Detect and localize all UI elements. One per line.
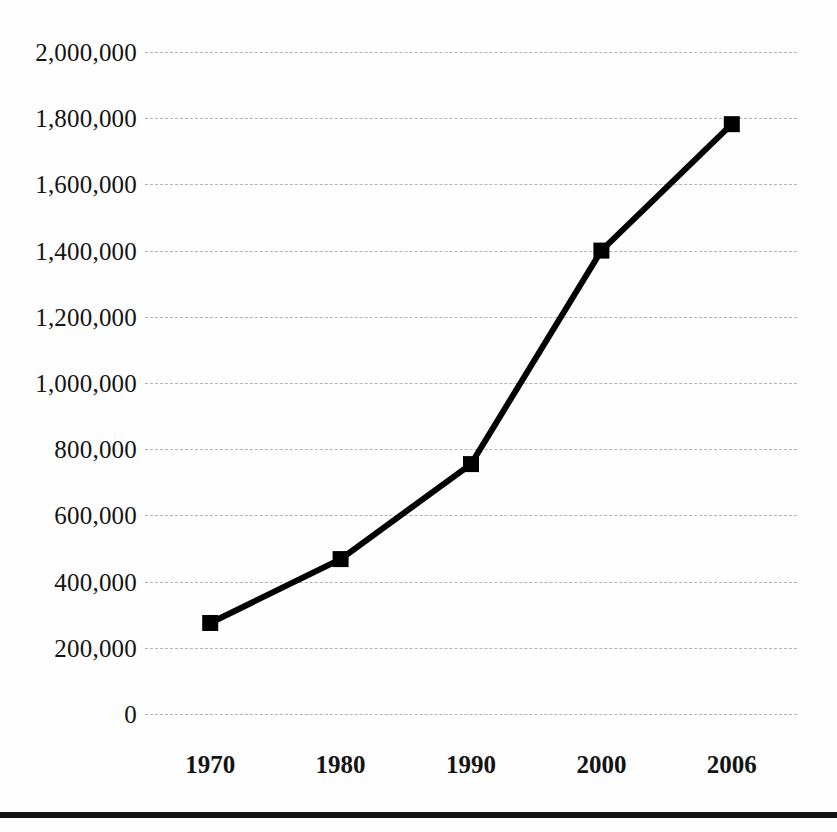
y-axis-tick-labels: 2,000,000 1,800,000 1,600,000 1,400,000 … (0, 52, 137, 714)
x-axis-tick-label: 1970 (185, 752, 235, 777)
y-axis-tick-label: 600,000 (54, 503, 137, 528)
y-axis-tick-label: 1,000,000 (35, 371, 137, 396)
x-axis-tick-label: 1990 (446, 752, 496, 777)
gridline (145, 383, 797, 384)
gridline (145, 515, 797, 516)
y-axis-tick-label: 2,000,000 (35, 40, 137, 65)
y-axis-tick-label: 400,000 (54, 569, 137, 594)
y-axis-tick-label: 800,000 (54, 437, 137, 462)
chart-figure: 2,000,000 1,800,000 1,600,000 1,400,000 … (0, 0, 837, 832)
footer-rule (0, 812, 837, 818)
gridline (145, 582, 797, 583)
x-axis-tick-label: 2006 (707, 752, 757, 777)
x-axis-tick-label: 2000 (576, 752, 626, 777)
gridline (145, 648, 797, 649)
gridline (145, 449, 797, 450)
gridline (145, 184, 797, 185)
y-axis-tick-label: 1,400,000 (35, 238, 137, 263)
gridline (145, 317, 797, 318)
y-axis-tick-label: 0 (124, 702, 137, 727)
gridline (145, 714, 797, 715)
x-axis-tick-labels: 1970 1980 1990 2000 2006 (145, 752, 797, 786)
y-axis-tick-label: 1,600,000 (35, 172, 137, 197)
plot-area (145, 52, 797, 714)
y-axis-tick-label: 1,200,000 (35, 304, 137, 329)
gridline (145, 52, 797, 53)
y-axis-tick-label: 200,000 (54, 635, 137, 660)
gridline (145, 118, 797, 119)
gridline (145, 251, 797, 252)
x-axis-tick-label: 1980 (316, 752, 366, 777)
y-axis-tick-label: 1,800,000 (35, 106, 137, 131)
